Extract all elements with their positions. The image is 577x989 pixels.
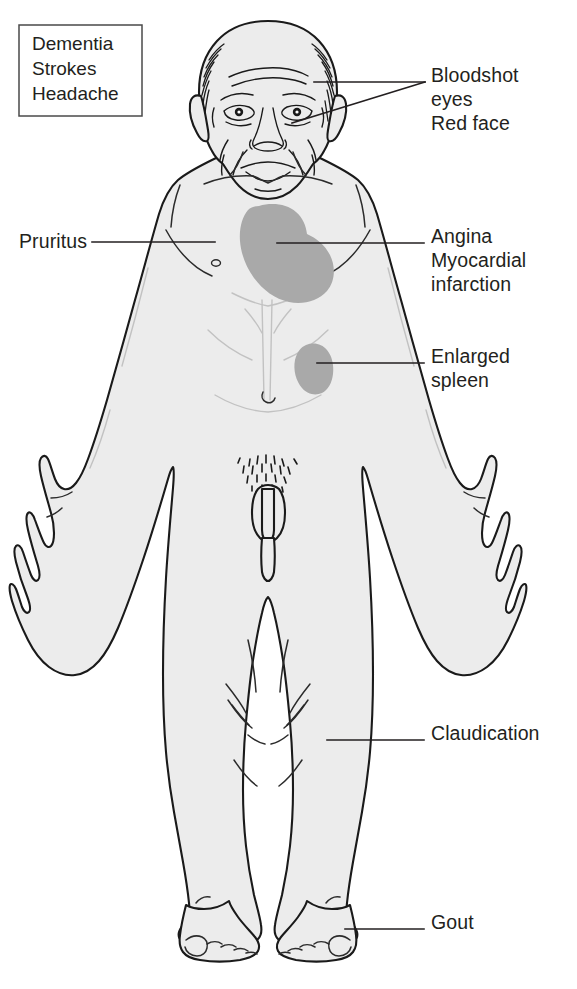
label-bloodshot-eyes-line-2: eyes	[431, 88, 473, 110]
label-gout-line-1: Gout	[431, 911, 474, 933]
box-line-2: Strokes	[32, 58, 96, 79]
label-pruritus-line-1: Pruritus	[19, 230, 87, 252]
neurologic-symptoms-box: Dementia Strokes Headache	[19, 25, 142, 116]
label-pruritus: Pruritus	[19, 230, 87, 252]
label-angina-line-2: Myocardial	[431, 249, 526, 271]
label-bloodshot-eyes-line-1: Bloodshot	[431, 64, 519, 86]
diagram-root: Dementia Strokes Headache Bloodshot eyes…	[0, 0, 577, 989]
label-claudication: Claudication	[431, 722, 540, 744]
body-diagram: Dementia Strokes Headache Bloodshot eyes…	[0, 0, 577, 989]
label-spleen-line-1: Enlarged	[431, 345, 510, 367]
label-spleen-line-2: spleen	[431, 369, 489, 391]
label-claudication-line-1: Claudication	[431, 722, 540, 744]
label-angina-line-3: infarction	[431, 273, 511, 295]
label-gout: Gout	[431, 911, 474, 933]
box-line-3: Headache	[32, 83, 119, 104]
label-angina-line-1: Angina	[431, 225, 492, 247]
box-line-1: Dementia	[32, 33, 114, 54]
label-bloodshot-eyes-line-3: Red face	[431, 112, 510, 134]
